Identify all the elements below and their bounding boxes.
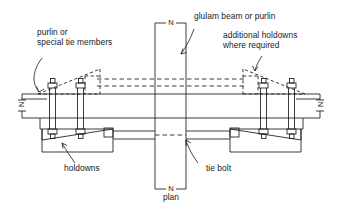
holdown-bolt-lower-right-1 [259, 118, 268, 139]
holdown-bracket-left [42, 129, 113, 152]
additional-holdown-left [38, 69, 100, 94]
holdown-bolt-lower-right-2 [287, 118, 296, 139]
label-tie-bolt: tie bolt [206, 163, 231, 173]
holdown-bracket-right [230, 129, 301, 152]
holdown-bolt-head-right-2 [287, 79, 296, 119]
label-glulam-beam: glulam beam or purlin [194, 11, 275, 21]
section-marker-left: N [17, 97, 27, 111]
tie-bolt [104, 128, 239, 139]
holdown-bolt-lower-left-2 [76, 118, 85, 139]
label-purlin-tie-members: purlin or special tie members [37, 27, 112, 48]
holdown-bolt-head-right-1 [259, 79, 268, 119]
upper-tie-bolt-hidden [97, 79, 246, 86]
holdown-bolt-lower-left-1 [48, 118, 57, 139]
label-holdowns: holdowns [64, 163, 100, 173]
purlin-member-outline [22, 94, 320, 118]
section-marker-top: N [164, 18, 178, 28]
section-marker-ticks [18, 100, 324, 111]
additional-holdown-right [243, 69, 305, 94]
label-additional-holdowns: additional holdowns where required [223, 30, 297, 51]
holdown-bolt-head-left-1 [48, 79, 57, 119]
section-marker-right: N [316, 97, 326, 111]
glulam-beam-outline [155, 23, 186, 189]
section-marker-bottom: N [164, 184, 178, 194]
lower-plate [40, 118, 303, 129]
drawing-canvas: purlin or special tie members glulam bea… [0, 0, 344, 212]
holdown-bolt-head-left-2 [76, 79, 85, 119]
